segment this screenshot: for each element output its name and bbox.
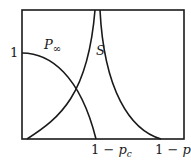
p-infinity-subscript: ∞	[53, 43, 61, 54]
axis-prefix: 1 −	[155, 142, 182, 157]
x-axis-label: 1 − p	[155, 143, 191, 156]
diagram-canvas	[0, 0, 191, 163]
y-tick-label-one: 1	[10, 46, 18, 59]
critical-prefix: 1 −	[91, 142, 118, 157]
s-label: S	[96, 44, 105, 57]
s-curve-left-branch	[27, 10, 95, 139]
axis-var: p	[182, 142, 190, 157]
p-infinity-label: P∞	[44, 38, 61, 52]
s-curve-right-branch	[100, 10, 161, 139]
p-infinity-symbol: P	[44, 37, 53, 52]
plot-frame	[22, 10, 184, 139]
critical-sub: c	[127, 149, 132, 159]
x-tick-label-critical: 1 − pc	[91, 143, 132, 158]
critical-var: p	[118, 142, 126, 157]
